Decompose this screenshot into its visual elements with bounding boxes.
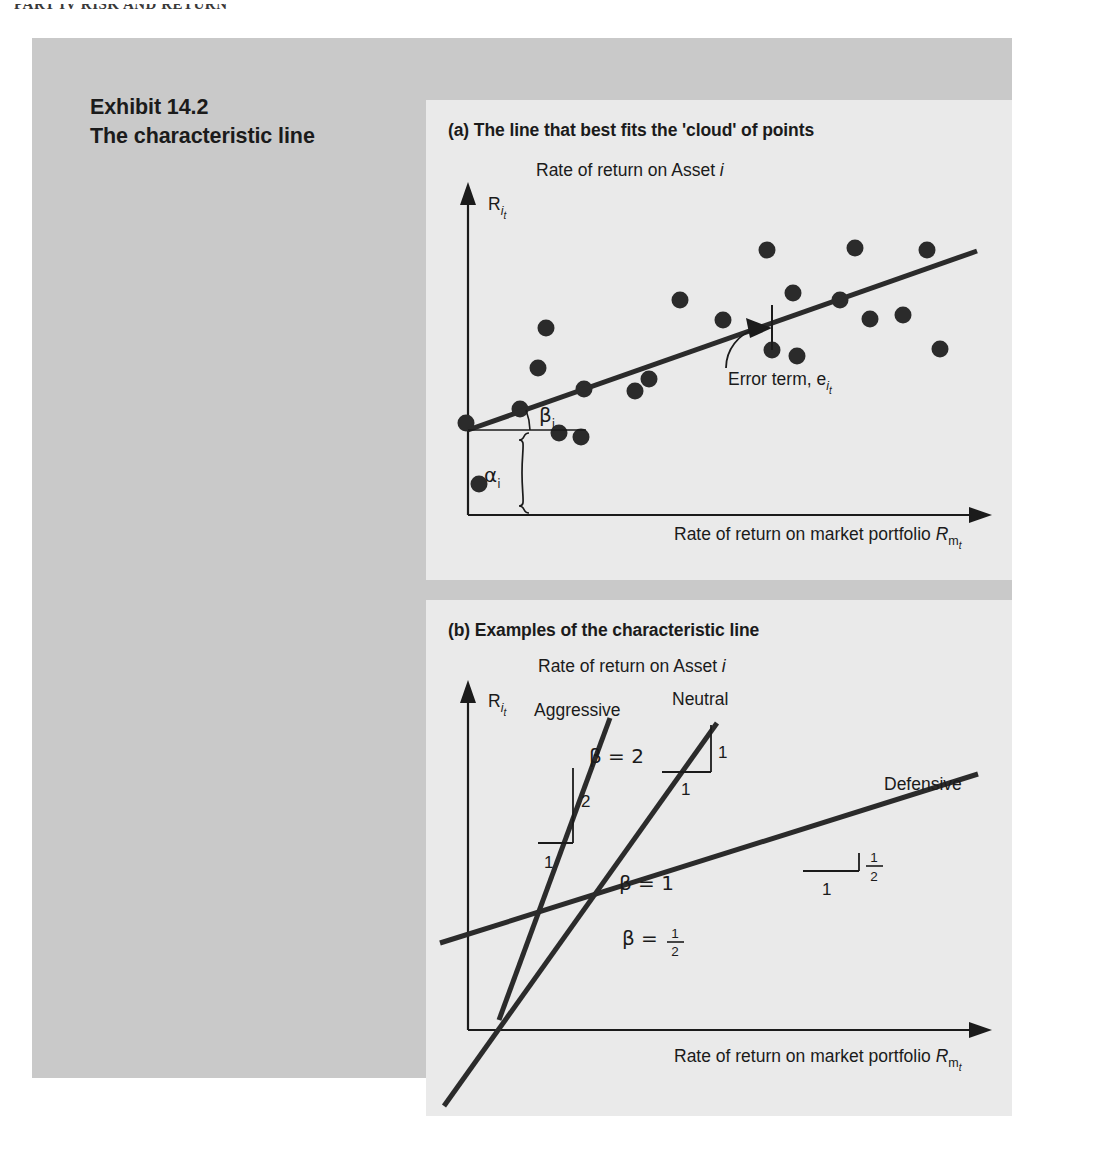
panel-a-scatter-points: [458, 240, 949, 493]
scatter-point: [672, 292, 689, 309]
panel-b-rise-aggressive: 2: [581, 792, 590, 811]
running-head: PART IV RISK AND RETURN: [14, 0, 228, 13]
scatter-point: [573, 429, 590, 446]
panel-b-label-neutral: Neutral: [672, 689, 728, 709]
panel-b-slope-triangle-defensive: [803, 853, 859, 871]
scatter-point: [847, 240, 864, 257]
panel-b-line-defensive: [440, 774, 978, 943]
scatter-point: [862, 311, 879, 328]
panel-a-error-label: Error term, eit: [728, 369, 833, 396]
rise-defensive-denominator: 2: [870, 869, 878, 884]
panel-a-x-axis-label: Rate of return on market portfolio Rmt: [674, 524, 963, 551]
scatter-point: [530, 360, 547, 377]
panel-b-run-neutral: 1: [681, 780, 690, 799]
panel-a-y-axis-label: Rate of return on Asset i: [536, 160, 725, 180]
panel-a-card: (a) The line that best fits the 'cloud' …: [426, 100, 1012, 580]
beta-defensive-numerator: 1: [671, 926, 679, 941]
panel-b-label-aggressive: Aggressive: [534, 700, 621, 720]
panel-b-run-aggressive: 1: [544, 853, 553, 872]
panel-b-rise-defensive: 1 2: [866, 850, 883, 884]
scatter-point: [538, 320, 555, 337]
panel-b-x-axis-label: Rate of return on market portfolio Rmt: [674, 1046, 963, 1073]
beta-defensive-denominator: 2: [671, 944, 679, 959]
panel-b-chart: Rate of return on Asset i Rit Aggressive…: [426, 600, 1012, 1116]
panel-b-y-axis-label: Rate of return on Asset i: [538, 656, 727, 676]
scatter-point: [715, 312, 732, 329]
scatter-point: [627, 383, 644, 400]
panel-b-beta-aggressive: β = 2: [589, 744, 644, 768]
panel-a-alpha-brace: [519, 433, 529, 513]
panel-a-beta-label: βi: [539, 403, 555, 431]
exhibit-title: The characteristic line: [90, 122, 315, 151]
scatter-point: [785, 285, 802, 302]
scatter-point: [919, 242, 936, 259]
panel-b-beta-neutral: β = 1: [619, 871, 674, 895]
panel-a-error-arrowhead: [746, 318, 772, 338]
svg-text:β =: β =: [622, 926, 658, 950]
scatter-point: [641, 371, 658, 388]
panel-b-run-defensive: 1: [822, 880, 831, 899]
scatter-point: [932, 341, 949, 358]
exhibit-caption: Exhibit 14.2 The characteristic line: [90, 93, 315, 150]
panel-b-label-defensive: Defensive: [884, 774, 962, 794]
rise-defensive-numerator: 1: [870, 850, 878, 865]
panel-a-chart: Rate of return on Asset i Rit: [426, 100, 1012, 580]
panel-a-y-symbol: Rit: [488, 194, 507, 221]
panel-a-alpha-label: αi: [484, 463, 501, 491]
scatter-point: [759, 242, 776, 259]
exhibit-panel: Exhibit 14.2 The characteristic line (a)…: [32, 38, 1012, 1078]
panel-b-rise-neutral: 1: [718, 743, 727, 762]
panel-b-beta-defensive: β = 1 2: [622, 926, 684, 959]
panel-b-card: (b) Examples of the characteristic line …: [426, 600, 1012, 1116]
panel-a-axes: [460, 182, 992, 523]
scatter-point: [895, 307, 912, 324]
exhibit-number: Exhibit 14.2: [90, 93, 315, 122]
panel-a-beta-arc: [526, 410, 530, 430]
panel-b-y-symbol: Rit: [488, 691, 507, 718]
scatter-point: [789, 348, 806, 365]
panel-b-axes: [460, 680, 992, 1038]
